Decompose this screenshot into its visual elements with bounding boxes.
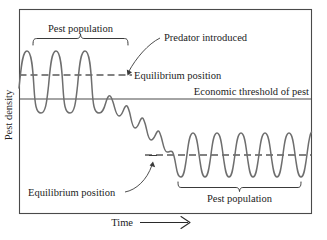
label-pest-population-upper: Pest population: [48, 23, 114, 34]
label-predator-introduced: Predator introduced: [164, 32, 248, 43]
label-economic-threshold: Economic threshold of pest: [194, 86, 309, 97]
x-axis-label: Time: [111, 217, 133, 228]
label-equilibrium-position-lower: Equilibrium position: [28, 187, 116, 198]
pest-density-chart: Pest density Pest population Predator in…: [0, 0, 327, 240]
y-axis-label: Pest density: [3, 89, 14, 140]
label-equilibrium-position-upper: Equilibrium position: [134, 70, 222, 81]
label-pest-population-lower: Pest population: [207, 193, 273, 204]
figure-container: Pest density Pest population Predator in…: [0, 0, 327, 240]
